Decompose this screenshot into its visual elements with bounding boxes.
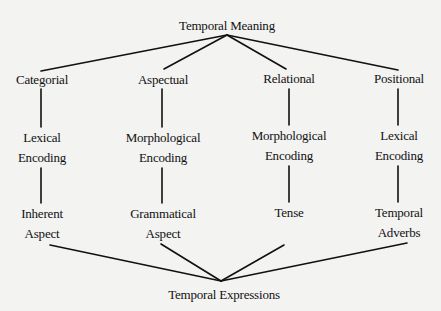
edge-line [221, 245, 284, 281]
form-node-grammatical-aspect: Grammatical Aspect [130, 204, 196, 244]
category-node-positional: Positional [374, 69, 424, 89]
form-label-line2: Adverbs [375, 223, 423, 243]
category-label: Aspectual [138, 70, 188, 90]
edge-line [41, 35, 227, 71]
encoding-label-line2: Encoding [375, 146, 423, 166]
encoding-label-line1: Morphological [126, 128, 201, 148]
form-label-line2: Aspect [21, 224, 63, 244]
root-label: Temporal Meaning [179, 16, 275, 36]
root-node-temporal-meaning: Temporal Meaning [179, 16, 275, 36]
form-label-line1: Grammatical [130, 204, 196, 224]
encoding-node-lexical: Lexical Encoding [18, 128, 66, 168]
category-label: Relational [263, 69, 314, 89]
form-node-tense: Tense [274, 203, 303, 223]
category-label: Positional [374, 69, 424, 89]
category-node-relational: Relational [263, 69, 314, 89]
form-label-line1: Tense [274, 203, 303, 223]
temporal-meaning-diagram: Temporal Meaning Categorial Lexical Enco… [0, 0, 441, 311]
sink-label: Temporal Expressions [168, 285, 280, 305]
encoding-label-line2: Encoding [126, 148, 201, 168]
sink-node-temporal-expressions: Temporal Expressions [168, 285, 280, 305]
form-label-line1: Temporal [375, 203, 423, 223]
encoding-label-line1: Lexical [375, 126, 423, 146]
form-label-line2: Aspect [130, 224, 196, 244]
category-label: Categorial [16, 70, 68, 90]
encoding-node-morphological: Morphological Encoding [252, 126, 327, 166]
category-node-aspectual: Aspectual [138, 70, 188, 90]
edge-line [227, 35, 286, 69]
edge-line [50, 245, 221, 281]
encoding-label-line2: Encoding [252, 146, 327, 166]
form-node-temporal-adverbs: Temporal Adverbs [375, 203, 423, 243]
form-label-line1: Inherent [21, 204, 63, 224]
encoding-node-lexical: Lexical Encoding [375, 126, 423, 166]
edge-line [164, 35, 227, 69]
edge-line [221, 243, 407, 281]
encoding-label-line1: Lexical [18, 128, 66, 148]
encoding-node-morphological: Morphological Encoding [126, 128, 201, 168]
category-node-categorial: Categorial [16, 70, 68, 90]
edge-line [227, 35, 398, 70]
form-node-inherent-aspect: Inherent Aspect [21, 204, 63, 244]
encoding-label-line1: Morphological [252, 126, 327, 146]
encoding-label-line2: Encoding [18, 148, 66, 168]
